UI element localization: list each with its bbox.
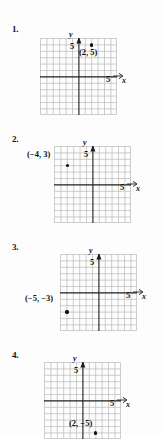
point-coordinate-label-1: (2, 5)	[79, 48, 97, 57]
x-axis-arrow-3	[133, 287, 145, 295]
problem-4: 4.	[0, 340, 163, 435]
y-axis-label-4: y	[73, 355, 77, 363]
y-tick-label-4: 5	[74, 366, 78, 375]
problem-number-3: 3.	[12, 242, 18, 252]
y-tick-label-2: 5	[84, 150, 88, 159]
plotted-point-3	[65, 310, 68, 313]
point-coordinate-label-3: (−5, −3)	[25, 294, 53, 303]
plotted-point-4	[94, 431, 97, 434]
x-axis-arrow-4	[117, 395, 129, 403]
x-axis-arrow-1	[113, 71, 125, 79]
point-coordinate-label-2: (−4, 3)	[27, 150, 50, 159]
problem-2: 2.	[0, 124, 163, 220]
y-axis-label-1: y	[69, 31, 73, 39]
problem-3: 3.	[0, 232, 163, 328]
x-tick-label-1: 5	[106, 75, 110, 84]
x-tick-label-3: 5	[126, 291, 130, 300]
x-axis-arrow-2	[127, 179, 139, 187]
problem-1: 1.	[0, 14, 163, 110]
x-tick-label-4: 5	[110, 399, 114, 408]
y-axis-label-2: y	[83, 139, 87, 147]
point-coordinate-label-4: (2, −5)	[69, 419, 92, 428]
problem-number-1: 1.	[12, 24, 18, 34]
y-axis-label-3: y	[89, 247, 93, 255]
y-tick-label-1: 5	[70, 42, 74, 51]
problem-number-2: 2.	[12, 134, 18, 144]
x-tick-label-2: 5	[120, 183, 124, 192]
problem-number-4: 4.	[12, 350, 18, 360]
y-tick-label-3: 5	[90, 258, 94, 267]
